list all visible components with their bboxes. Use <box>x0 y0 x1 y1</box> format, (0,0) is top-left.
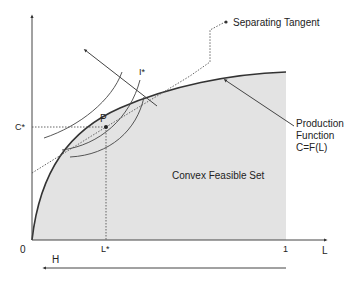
c-star-label: C* <box>15 122 25 132</box>
tangent-label-pointer-icon <box>224 20 227 23</box>
leisure-label: H <box>52 254 59 265</box>
convex-feasible-set-region <box>32 72 286 240</box>
production-function-label-3: C=F(L) <box>296 142 327 153</box>
x-one-label: 1 <box>283 244 288 254</box>
diagram-canvas: 0 L 1 L* C* P I* Separating Tangent Prod… <box>0 0 356 284</box>
point-p-marker <box>104 125 108 129</box>
indifference-label: I* <box>139 67 146 77</box>
l-star-label: L* <box>101 244 110 254</box>
feasible-set-label: Convex Feasible Set <box>172 170 264 181</box>
separating-tangent-label: Separating Tangent <box>233 17 320 28</box>
origin-label: 0 <box>20 244 26 255</box>
x-axis-label: L <box>322 245 328 256</box>
production-function-label-1: Production <box>296 118 344 129</box>
point-p-label: P <box>100 113 107 124</box>
gradient-arrow <box>85 50 157 106</box>
production-function-label-2: Function <box>296 130 334 141</box>
